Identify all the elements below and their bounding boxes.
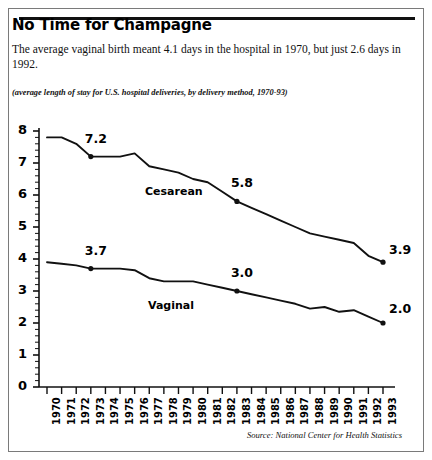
y-tick-label: 8 — [11, 122, 27, 137]
x-tick-label: 1993 — [387, 397, 398, 425]
x-tick-label: 1977 — [153, 397, 164, 425]
y-tick-label: 3 — [11, 282, 27, 297]
x-tick-label: 1987 — [299, 397, 310, 425]
x-tick-label: 1983 — [241, 397, 252, 425]
x-tick-label: 1991 — [358, 397, 369, 425]
x-tick-label: 1971 — [66, 397, 77, 425]
x-tick-label: 1989 — [329, 397, 340, 425]
x-tick-label: 1973 — [95, 397, 106, 425]
chart-plot-area: 0123456781970197119721973197419751976197… — [0, 0, 432, 460]
data-point-marker — [380, 260, 385, 265]
series-line-vaginal — [47, 262, 383, 323]
x-axis-ticks — [47, 387, 383, 394]
x-tick-label: 1984 — [256, 397, 267, 425]
x-tick-label: 1972 — [80, 397, 91, 425]
data-point-marker — [88, 154, 93, 159]
y-axis-ticks — [33, 131, 39, 387]
value-annotation: 2.0 — [389, 301, 411, 316]
x-tick-label: 1985 — [270, 397, 281, 425]
x-tick-label: 1975 — [124, 397, 135, 425]
x-tick-label: 1976 — [139, 397, 150, 425]
series-label-cesarean: Cesarean — [145, 185, 203, 198]
x-tick-label: 1978 — [168, 397, 179, 425]
y-tick-label: 7 — [11, 154, 27, 169]
series-label-vaginal: Vaginal — [148, 299, 194, 312]
data-point-marker — [234, 199, 239, 204]
x-tick-label: 1981 — [212, 397, 223, 425]
y-tick-label: 0 — [11, 378, 27, 393]
y-tick-label: 2 — [11, 314, 27, 329]
x-tick-label: 1982 — [226, 397, 237, 425]
value-annotation: 3.7 — [85, 243, 107, 258]
y-tick-label: 1 — [11, 346, 27, 361]
data-point-marker — [88, 266, 93, 271]
y-tick-label: 4 — [11, 250, 27, 265]
data-point-marker — [234, 288, 239, 293]
x-tick-label: 1979 — [182, 397, 193, 425]
value-annotation: 3.0 — [231, 265, 253, 280]
x-tick-label: 1988 — [314, 397, 325, 425]
value-annotation: 5.8 — [231, 175, 253, 190]
y-tick-label: 5 — [11, 218, 27, 233]
x-tick-label: 1970 — [51, 397, 62, 425]
x-tick-label: 1980 — [197, 397, 208, 425]
x-tick-label: 1986 — [285, 397, 296, 425]
value-annotation: 7.2 — [85, 131, 107, 146]
data-point-marker — [380, 320, 385, 325]
value-annotation: 3.9 — [389, 242, 411, 257]
x-tick-label: 1990 — [343, 397, 354, 425]
x-tick-label: 1974 — [109, 397, 120, 425]
source-note: Source: National Center for Health Stati… — [12, 430, 402, 440]
x-tick-label: 1992 — [372, 397, 383, 425]
y-tick-label: 6 — [11, 186, 27, 201]
chart-svg — [0, 0, 432, 460]
